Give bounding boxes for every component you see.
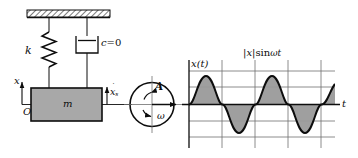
spring-element [42, 18, 56, 88]
origin-label: O [23, 107, 31, 117]
damper-label-eq: = [107, 37, 115, 48]
damper-label-value: 0 [115, 37, 121, 48]
amplitude-label: A [155, 81, 163, 92]
ceiling-support [27, 10, 110, 18]
velocity-label: ˙xs [110, 87, 118, 98]
curve-equation-label: |x|sinωt [243, 48, 281, 58]
velocity-label-x: ˙x [110, 86, 115, 97]
figure-canvas: k c=0 m x O ˙xs A ω x(t) t |x|sinωt [0, 0, 358, 158]
figure-graphics [0, 0, 358, 158]
displacement-axis [22, 82, 31, 105]
plot-x-axis-label: t [342, 99, 346, 109]
plot-y-axis-label: x(t) [191, 59, 208, 69]
damper-element [76, 18, 98, 88]
damper-label: c=0 [101, 38, 121, 48]
velocity-label-sub: s [115, 91, 118, 97]
curve-sin: sin [255, 47, 270, 58]
spring-label: k [25, 45, 32, 56]
mass-label: m [63, 99, 72, 109]
curve-omega-t: ωt [270, 48, 281, 58]
phasor-diagram [124, 76, 182, 133]
displacement-axis-label: x [14, 76, 20, 86]
angular-velocity-label: ω [157, 111, 165, 121]
plot-axes [182, 60, 340, 148]
